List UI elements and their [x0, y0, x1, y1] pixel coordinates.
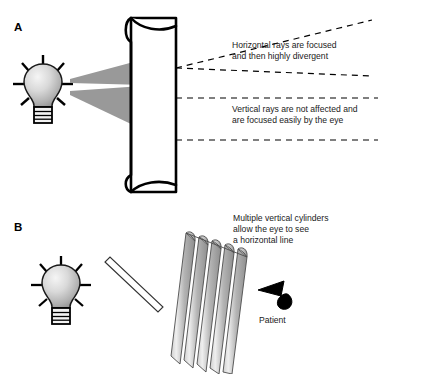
- patient-caption: Patient: [259, 315, 286, 325]
- multiple-vertical-cylinders: [171, 232, 247, 374]
- diagram-canvas: A: [0, 0, 422, 374]
- vertical-cylinder-lens: [126, 18, 176, 192]
- panel-a-label: A: [14, 21, 22, 33]
- bulb-a-glass: [24, 64, 62, 107]
- horizontal-rays-annotation: Horizontal rays are focused and then hig…: [232, 40, 337, 61]
- panel-a: A: [13, 18, 378, 192]
- horizontal-rays-line-1: Horizontal rays are focused: [232, 40, 337, 50]
- vertical-rays-line-2: are focused easily by the eye: [232, 115, 344, 125]
- bulb-b-glass: [42, 265, 80, 308]
- cylinders-line-3: a horizontal line: [233, 235, 293, 245]
- panel-b-label: B: [14, 221, 22, 233]
- cylinders-line-2: allow the eye to see: [233, 224, 309, 234]
- bulb-a-base: [34, 107, 52, 123]
- figure-root: A: [0, 0, 422, 374]
- panel-b: B: [14, 213, 329, 374]
- vertical-rays-annotation: Vertical rays are not affected and are f…: [232, 104, 358, 125]
- slit-line-target: [105, 257, 163, 312]
- multiple-cylinders-annotation: Multiple vertical cylinders allow the ey…: [233, 213, 329, 245]
- cylinders-line-1: Multiple vertical cylinders: [233, 213, 329, 223]
- horizontal-rays-line-2: and then highly divergent: [232, 51, 329, 61]
- bulb-b-base: [52, 308, 70, 324]
- patient-eye-icon: [258, 281, 292, 309]
- vertical-rays-line-1: Vertical rays are not affected and: [232, 104, 358, 114]
